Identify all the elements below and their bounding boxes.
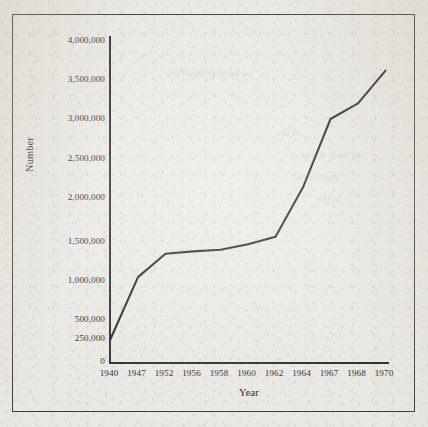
x-axis-tick-1970: 1970 (367, 369, 401, 378)
chart-page: a large proportion of the increase in th… (0, 0, 428, 427)
x-axis-title: Year (109, 387, 389, 398)
line-series-number (111, 71, 386, 339)
x-axis-tick-labels: 1940194719521956195819601962196419671968… (109, 369, 389, 383)
data-series-layer (0, 0, 428, 427)
plot-area: 4,000,0003,500,0003,000,0002,500,0002,00… (0, 0, 428, 427)
